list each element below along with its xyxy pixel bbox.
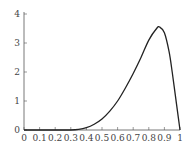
x-tick-label: 0.1: [32, 133, 46, 143]
x-tick-label: 0.7: [126, 133, 141, 143]
x-tick-label: 0.6: [110, 133, 125, 143]
x-tick-label: 0.8: [142, 133, 157, 143]
y-tick-label: 4: [14, 9, 20, 19]
x-tick-label: 0.2: [48, 133, 62, 143]
y-tick-label: 3: [14, 38, 20, 48]
y-tick-label: 2: [14, 67, 20, 77]
y-tick-label: 1: [14, 96, 20, 106]
y-tick-label: 0: [14, 125, 20, 135]
x-tick-label: 0.5: [95, 133, 110, 143]
density-curve: [24, 27, 180, 130]
x-tick-label: 0.3: [64, 133, 79, 143]
x-tick-label: 0.4: [79, 133, 94, 143]
axes: [24, 12, 180, 130]
x-tick-label: 0: [21, 133, 27, 143]
y-axis-ticks: 01234: [14, 9, 27, 135]
x-tick-label: 1: [177, 133, 183, 143]
chart: 00.10.20.30.40.50.60.70.80.91 01234: [0, 0, 188, 153]
x-tick-label: 0.9: [157, 133, 172, 143]
